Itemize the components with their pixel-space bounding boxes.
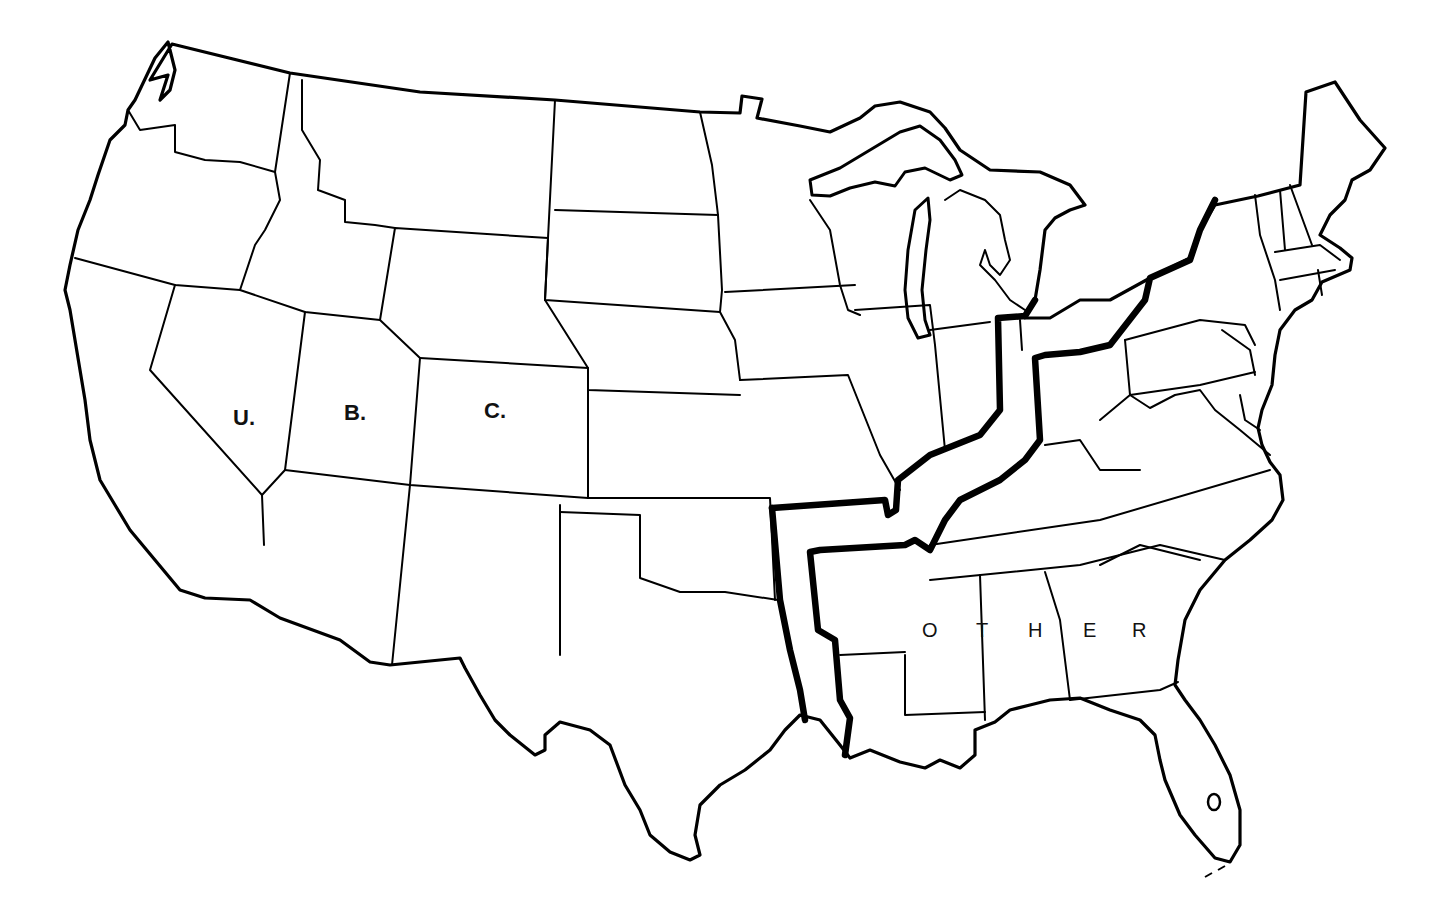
region-label-other-e: E: [1083, 619, 1096, 642]
florida-keys: [1205, 866, 1225, 877]
region-label-other-h: H: [1028, 619, 1042, 642]
region-label-b: B.: [344, 400, 366, 426]
region-label-u: U.: [233, 405, 255, 431]
us-coastline: [65, 42, 1385, 862]
region-label-c: C.: [484, 398, 506, 424]
region-label-other-o: O: [922, 619, 938, 642]
us-outline-map: [0, 0, 1433, 913]
region-label-other-t: T: [976, 619, 988, 642]
lake-okeechobee: [1208, 794, 1220, 810]
region-label-other-r: R: [1132, 619, 1146, 642]
